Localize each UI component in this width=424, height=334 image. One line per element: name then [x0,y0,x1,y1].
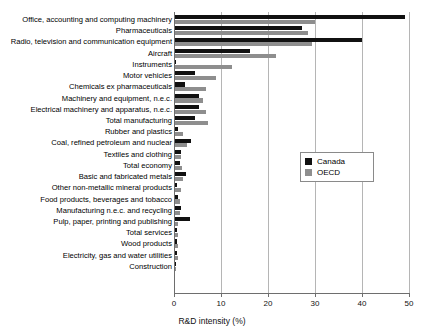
bar-oecd [175,98,203,102]
bar-oecd [175,42,312,46]
bar-canada [175,172,186,176]
chart-row: Electrical machinery and apparatus, n.e.… [0,104,424,115]
category-label: Construction [129,261,172,272]
x-tick-label-0: 0 [172,299,176,308]
x-tick-0 [174,293,175,297]
x-tick-label-20: 20 [264,299,273,308]
category-label: Food products, beverages and tobacco [40,194,172,205]
x-axis-line [174,293,410,294]
chart-row: Total services [0,227,424,238]
bar-canada [175,15,405,19]
bar-canada [175,82,185,86]
chart-row: Motor vehicles [0,70,424,81]
legend-item-oecd: OECD [305,167,369,178]
category-label: Instruments [132,59,172,70]
chart-row: Wood products [0,238,424,249]
bar-oecd [175,76,216,80]
category-label: Other non-metallic mineral products [52,182,172,193]
category-label: Total manufacturing [106,115,172,126]
x-tick-label-10: 10 [217,299,226,308]
bar-oecd [175,87,206,91]
bar-canada [175,105,199,109]
x-tick-label-30: 30 [311,299,320,308]
bar-canada [175,49,250,53]
category-label: Wood products [121,238,172,249]
bar-canada [175,217,190,221]
legend-item-canada: Canada [305,156,369,167]
category-label: Total economy [123,160,172,171]
bar-canada [175,228,177,232]
category-label: Office, accounting and computing machine… [22,14,172,25]
bar-oecd [175,20,315,24]
bar-canada [175,94,199,98]
category-label: Pulp, paper, printing and publishing [53,216,172,227]
chart-row: Instruments [0,59,424,70]
bar-oecd [175,65,232,69]
bar-canada [175,183,177,187]
x-tick-40 [362,293,363,297]
chart-row: Office, accounting and computing machine… [0,14,424,25]
chart-row: Rubber and plastics [0,126,424,137]
category-label: Chemicals ex pharmaceuticals [69,81,172,92]
bar-canada [175,161,180,165]
bar-oecd [175,155,181,159]
bar-canada [175,251,177,255]
chart-row: Coal, refined petroleum and nuclear [0,137,424,148]
category-label: Textiles and clothing [104,149,172,160]
x-axis-label: R&D intensity (%) [0,316,424,326]
bar-oecd [175,211,180,215]
chart-row: Electricity, gas and water utilities [0,250,424,261]
bar-oecd [175,222,178,226]
rd-intensity-bar-chart: Office, accounting and computing machine… [0,0,424,334]
category-label: Total services [126,227,172,238]
chart-row: Other non-metallic mineral products [0,182,424,193]
bar-oecd [175,233,178,237]
bar-oecd [175,31,308,35]
bar-oecd [175,54,276,58]
bar-canada [175,239,177,243]
bar-oecd [175,110,206,114]
bar-oecd [175,143,187,147]
category-label: Manufacturing n.e.c. and recycling [56,205,172,216]
category-label: Basic and fabricated metals [79,171,172,182]
x-tick-label-50: 50 [405,299,414,308]
bar-oecd [175,256,178,260]
chart-row: Machinery and equipment, n.e.c. [0,93,424,104]
bar-canada [175,38,362,42]
bar-oecd [175,166,182,170]
bar-canada [175,206,181,210]
category-label: Coal, refined petroleum and nuclear [51,137,172,148]
category-label: Aircraft [148,48,172,59]
category-label: Machinery and equipment, n.e.c. [62,93,172,104]
category-label: Rubber and plastics [105,126,172,137]
bar-canada [175,262,176,266]
bar-oecd [175,177,183,181]
bar-oecd [175,267,176,271]
x-tick-30 [315,293,316,297]
chart-row: Chemicals ex pharmaceuticals [0,81,424,92]
bar-oecd [175,121,208,125]
bar-canada [175,116,195,120]
x-tick-10 [221,293,222,297]
chart-row: Food products, beverages and tobacco [0,194,424,205]
x-tick-50 [409,293,410,297]
category-label: Radio, television and communication equi… [11,36,172,47]
chart-row: Manufacturing n.e.c. and recycling [0,205,424,216]
bar-oecd [175,132,183,136]
chart-row: Total manufacturing [0,115,424,126]
x-tick-20 [268,293,269,297]
bar-oecd [175,199,180,203]
category-label: Electrical machinery and apparatus, n.e.… [31,104,172,115]
bar-canada [175,139,191,143]
bar-canada [175,26,302,30]
category-label: Pharmaceuticals [116,25,172,36]
category-label: Electricity, gas and water utilities [63,250,172,261]
legend-swatch-oecd-icon [305,169,312,176]
chart-row: Pulp, paper, printing and publishing [0,216,424,227]
chart-row: Radio, television and communication equi… [0,36,424,47]
x-tick-label-40: 40 [358,299,367,308]
chart-row: Construction [0,261,424,272]
chart-row: Pharmaceuticals [0,25,424,36]
bar-rows: Office, accounting and computing machine… [0,0,424,281]
bar-canada [175,195,178,199]
